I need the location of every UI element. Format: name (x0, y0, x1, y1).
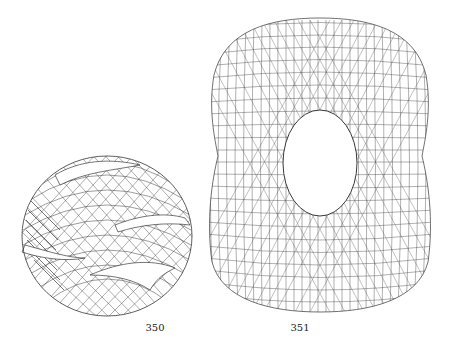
figure-350-ball-surface (20, 150, 195, 320)
figure-label-351: 351 (280, 322, 320, 333)
figure-351-hole (283, 110, 357, 216)
figure-plate (0, 0, 456, 354)
figure-label-350: 350 (135, 322, 175, 333)
